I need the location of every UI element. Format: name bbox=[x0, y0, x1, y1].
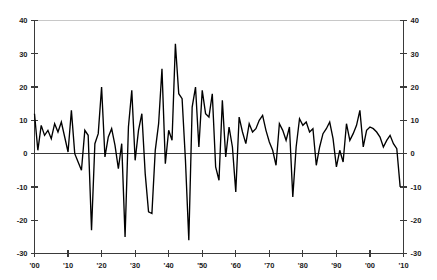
x-tick-label: '60 bbox=[231, 261, 241, 270]
chart-figure: 404030302020101000-10-10-20-20-30-30'00'… bbox=[0, 0, 437, 280]
x-tick-label: '10 bbox=[398, 261, 408, 270]
y-tick-label-right: 10 bbox=[411, 116, 419, 125]
y-tick-label-left: -20 bbox=[17, 216, 28, 225]
x-tick-label: '50 bbox=[197, 261, 207, 270]
y-tick-label-right: -20 bbox=[411, 216, 422, 225]
x-tick-label: '00 bbox=[29, 261, 39, 270]
y-tick-label-left: 20 bbox=[19, 83, 27, 92]
y-tick-label-right: 40 bbox=[411, 16, 419, 25]
y-tick-label-right: 20 bbox=[411, 83, 419, 92]
x-tick-label: '20 bbox=[97, 261, 107, 270]
y-tick-label-right: -10 bbox=[411, 183, 422, 192]
x-tick-label: '80 bbox=[298, 261, 308, 270]
data-series-line bbox=[35, 44, 401, 240]
x-tick-label: '40 bbox=[164, 261, 174, 270]
y-tick-label-left: -10 bbox=[17, 183, 28, 192]
y-tick-label-left: 0 bbox=[23, 149, 27, 158]
x-tick-label: '10 bbox=[63, 261, 73, 270]
series-layer bbox=[35, 44, 401, 240]
y-tick-label-left: 40 bbox=[19, 16, 27, 25]
y-tick-label-left: 30 bbox=[19, 50, 27, 59]
x-tick-label: '30 bbox=[130, 261, 140, 270]
y-tick-label-right: -30 bbox=[411, 249, 422, 258]
x-tick-label: '70 bbox=[264, 261, 274, 270]
y-tick-label-left: 10 bbox=[19, 116, 27, 125]
axis-labels-layer: 404030302020101000-10-10-20-20-30-30'00'… bbox=[17, 16, 422, 269]
y-tick-label-right: 0 bbox=[411, 149, 415, 158]
y-tick-label-right: 30 bbox=[411, 50, 419, 59]
x-tick-label: '00 bbox=[365, 261, 375, 270]
x-tick-label: '90 bbox=[331, 261, 341, 270]
line-chart-plot: 404030302020101000-10-10-20-20-30-30'00'… bbox=[0, 0, 437, 280]
y-tick-label-left: -30 bbox=[17, 249, 28, 258]
